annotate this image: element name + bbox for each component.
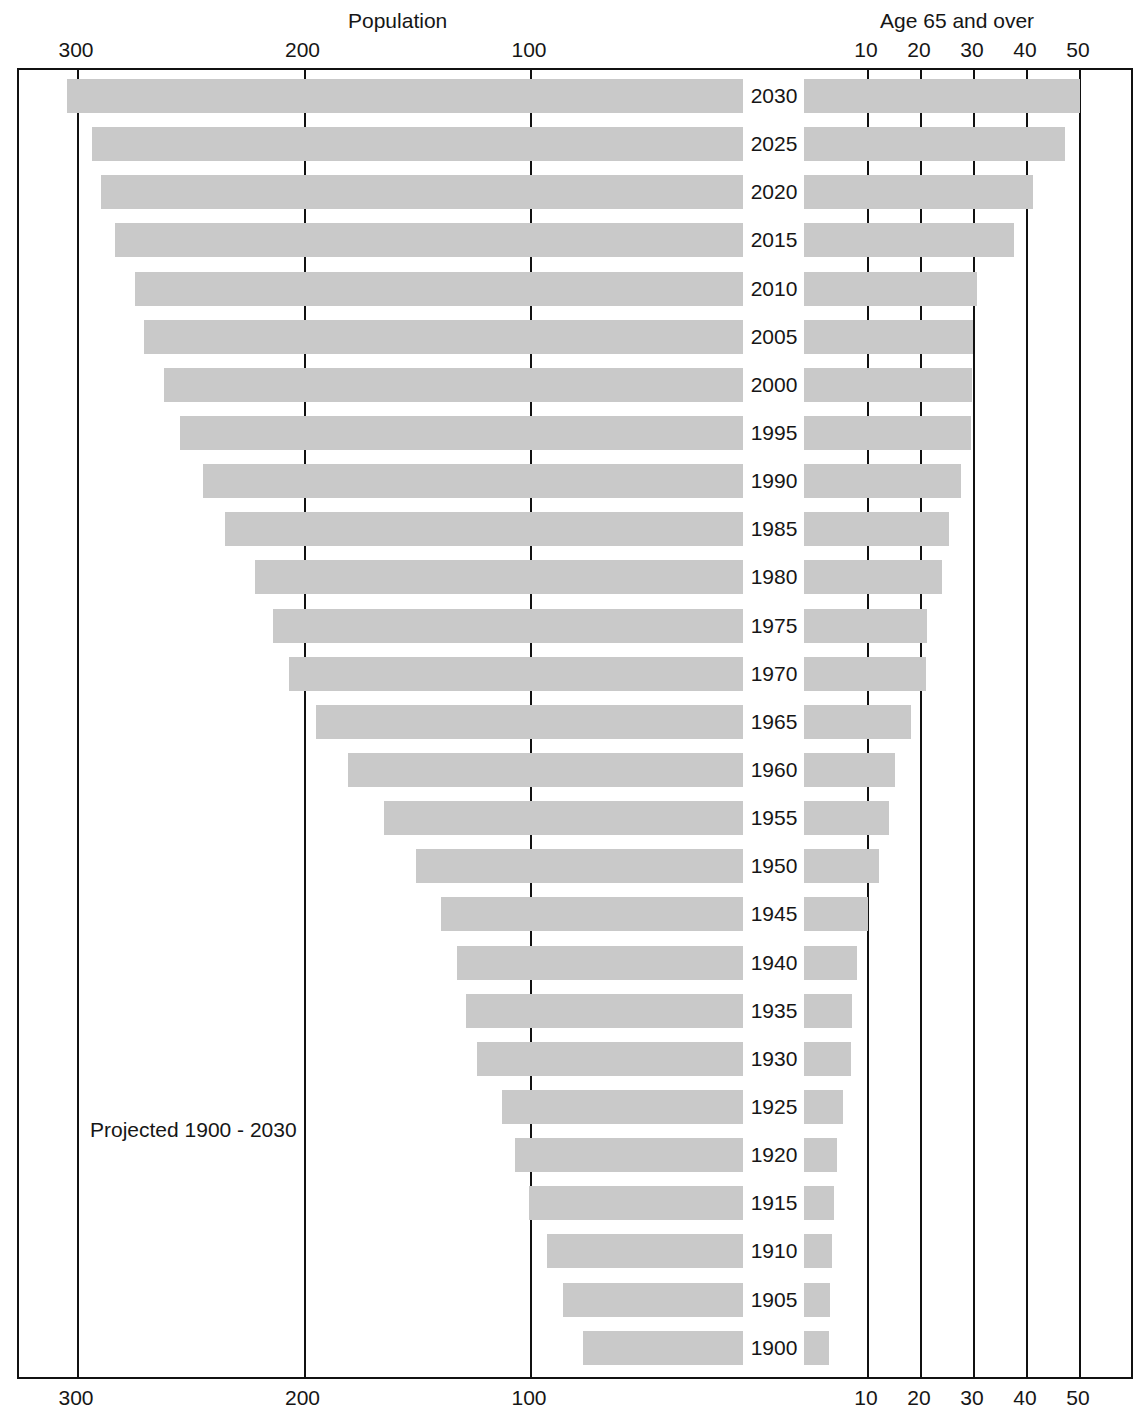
bar-population-2000	[164, 368, 743, 402]
bar-population-1925	[502, 1090, 743, 1124]
bar-age65-1905	[804, 1283, 830, 1317]
bar-row: 1910	[0, 1234, 1141, 1268]
bar-row: 1915	[0, 1186, 1141, 1220]
bar-population-1995	[180, 416, 743, 450]
year-label-1940: 1940	[743, 946, 805, 980]
bar-age65-1900	[804, 1331, 829, 1365]
bar-row: 1935	[0, 994, 1141, 1028]
year-label-1950: 1950	[743, 849, 805, 883]
year-label-2005: 2005	[743, 320, 805, 354]
bar-row: 1980	[0, 560, 1141, 594]
year-label-1930: 1930	[743, 1042, 805, 1076]
bar-rows: 2030202520202015201020052000199519901985…	[0, 0, 1141, 1425]
bar-row: 1970	[0, 657, 1141, 691]
bar-population-1915	[529, 1186, 743, 1220]
bar-population-1905	[563, 1283, 743, 1317]
bar-age65-1995	[804, 416, 971, 450]
bar-population-1940	[457, 946, 743, 980]
year-label-1905: 1905	[743, 1283, 805, 1317]
bar-population-1950	[416, 849, 743, 883]
bar-row: 2025	[0, 127, 1141, 161]
bar-age65-2020	[804, 175, 1033, 209]
year-label-1955: 1955	[743, 801, 805, 835]
bar-age65-1930	[804, 1042, 851, 1076]
bar-row: 1920	[0, 1138, 1141, 1172]
bar-age65-1985	[804, 512, 949, 546]
year-label-2000: 2000	[743, 368, 805, 402]
bar-age65-1940	[804, 946, 857, 980]
bottom-tick-age65-50: 50	[1066, 1386, 1089, 1410]
bar-age65-1935	[804, 994, 852, 1028]
bar-age65-2005	[804, 320, 973, 354]
bar-row: 1990	[0, 464, 1141, 498]
bottom-tick-population-200: 200	[285, 1386, 320, 1410]
bar-age65-1980	[804, 560, 942, 594]
year-label-1995: 1995	[743, 416, 805, 450]
year-label-1925: 1925	[743, 1090, 805, 1124]
bar-age65-1910	[804, 1234, 832, 1268]
year-label-1915: 1915	[743, 1186, 805, 1220]
bar-row: 1900	[0, 1331, 1141, 1365]
year-label-1980: 1980	[743, 560, 805, 594]
bar-population-1975	[273, 609, 743, 643]
year-label-1900: 1900	[743, 1331, 805, 1365]
bar-population-2010	[135, 272, 743, 306]
chart-canvas: Population Age 65 and over 3002001001020…	[0, 0, 1141, 1425]
bar-age65-2025	[804, 127, 1065, 161]
bar-age65-1925	[804, 1090, 843, 1124]
year-label-2030: 2030	[743, 79, 805, 113]
year-label-1965: 1965	[743, 705, 805, 739]
bar-row: 1950	[0, 849, 1141, 883]
year-label-1920: 1920	[743, 1138, 805, 1172]
bar-population-1960	[348, 753, 743, 787]
bar-row: 2030	[0, 79, 1141, 113]
bottom-tick-age65-40: 40	[1013, 1386, 1036, 1410]
bar-population-1965	[316, 705, 743, 739]
bar-population-1910	[547, 1234, 743, 1268]
bar-population-1990	[203, 464, 743, 498]
year-label-2010: 2010	[743, 272, 805, 306]
bar-age65-1965	[804, 705, 911, 739]
bar-row: 1945	[0, 897, 1141, 931]
bar-population-1930	[477, 1042, 743, 1076]
bar-age65-1945	[804, 897, 868, 931]
bar-age65-2010	[804, 272, 977, 306]
year-label-1945: 1945	[743, 897, 805, 931]
bar-age65-1915	[804, 1186, 834, 1220]
bar-row: 2020	[0, 175, 1141, 209]
bottom-tick-population-100: 100	[511, 1386, 546, 1410]
bar-population-2005	[144, 320, 743, 354]
year-label-1975: 1975	[743, 609, 805, 643]
bar-age65-1920	[804, 1138, 837, 1172]
bar-population-1970	[289, 657, 743, 691]
year-label-2020: 2020	[743, 175, 805, 209]
year-label-1970: 1970	[743, 657, 805, 691]
bar-age65-1990	[804, 464, 961, 498]
bar-age65-1955	[804, 801, 889, 835]
bar-population-2015	[115, 223, 743, 257]
year-label-1910: 1910	[743, 1234, 805, 1268]
bar-age65-2030	[804, 79, 1080, 113]
bar-population-1945	[441, 897, 743, 931]
bar-row: 1930	[0, 1042, 1141, 1076]
bar-population-2030	[67, 79, 743, 113]
bar-population-1900	[583, 1331, 743, 1365]
bar-row: 1965	[0, 705, 1141, 739]
bar-population-1985	[225, 512, 743, 546]
bar-row: 2005	[0, 320, 1141, 354]
year-label-2015: 2015	[743, 223, 805, 257]
bar-age65-1975	[804, 609, 927, 643]
year-label-2025: 2025	[743, 127, 805, 161]
bar-row: 2010	[0, 272, 1141, 306]
bar-row: 1940	[0, 946, 1141, 980]
bar-row: 1995	[0, 416, 1141, 450]
bar-row: 1960	[0, 753, 1141, 787]
bar-age65-2015	[804, 223, 1014, 257]
bar-row: 1905	[0, 1283, 1141, 1317]
bar-population-2025	[92, 127, 743, 161]
bar-row: 2000	[0, 368, 1141, 402]
year-label-1960: 1960	[743, 753, 805, 787]
bar-age65-2000	[804, 368, 972, 402]
projected-annotation: Projected 1900 - 2030	[90, 1118, 297, 1142]
bar-age65-1950	[804, 849, 879, 883]
